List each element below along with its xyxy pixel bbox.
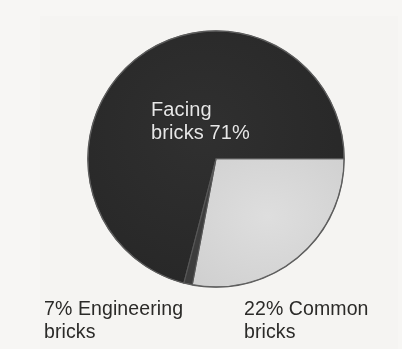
pie-label-facing-bricks: Facing bricks 71% [151,98,311,144]
pie-svg [87,30,345,288]
pie-label-engineering-bricks: 7% Engineering bricks [44,297,234,343]
pie-chart-graphic [87,30,345,288]
pie-slice-common-bricks[interactable] [192,159,344,287]
pie-chart-figure: Facing bricks 71% 7% Engineering bricks … [40,16,398,349]
pie-label-common-bricks: 22% Common bricks [244,297,402,343]
